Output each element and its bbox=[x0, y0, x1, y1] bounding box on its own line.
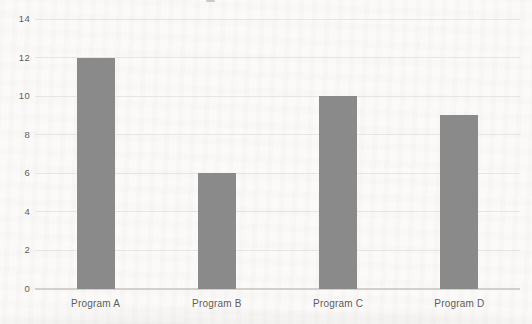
y-tick-label-14: 14 bbox=[0, 13, 30, 24]
y-tick-label-2: 2 bbox=[0, 244, 30, 255]
gridline-y14 bbox=[35, 19, 520, 20]
bar-program-d bbox=[440, 115, 478, 288]
bar-program-a bbox=[77, 58, 115, 289]
y-tick-label-4: 4 bbox=[0, 206, 30, 217]
x-label-program-b: Program B bbox=[156, 298, 277, 309]
y-tick-label-0: 0 bbox=[0, 283, 30, 294]
y-tick-label-6: 6 bbox=[0, 167, 30, 178]
y-tick-label-12: 12 bbox=[0, 52, 30, 63]
y-tick-label-8: 8 bbox=[0, 129, 30, 140]
x-label-program-d: Program D bbox=[399, 298, 520, 309]
bar-program-c bbox=[319, 96, 357, 289]
bar-chart: 02468101214 Program AProgram BProgram CP… bbox=[0, 0, 532, 324]
bar-program-b bbox=[198, 173, 236, 289]
bar-chart-photo: 02468101214 Program AProgram BProgram CP… bbox=[0, 0, 532, 324]
y-tick-label-10: 10 bbox=[0, 90, 30, 101]
x-label-program-c: Program C bbox=[278, 298, 399, 309]
x-label-program-a: Program A bbox=[35, 298, 156, 309]
